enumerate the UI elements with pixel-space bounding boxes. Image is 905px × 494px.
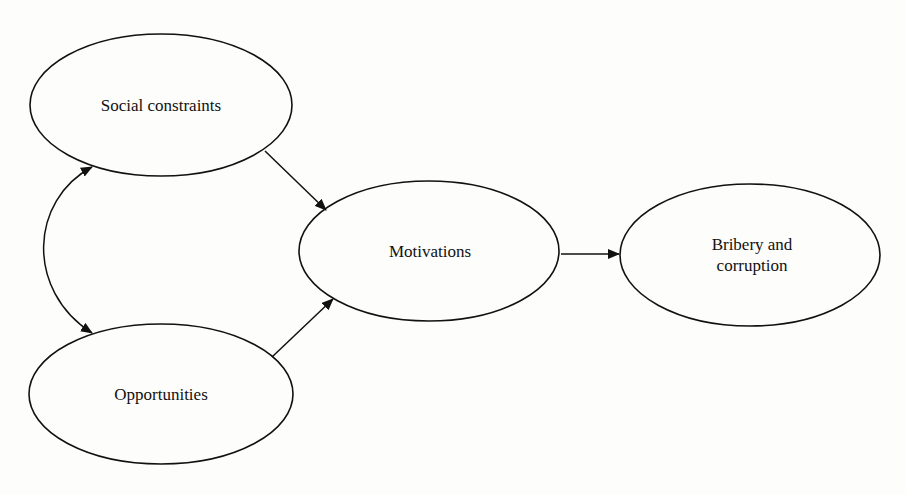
label-motivations: Motivations: [389, 241, 471, 262]
label-opportunities: Opportunities: [114, 384, 208, 405]
edge-opportunities-to-motivations: [272, 299, 333, 357]
label-social-constraints: Social constraints: [101, 95, 221, 116]
label-bribery-and-corruption: Bribery and corruption: [712, 234, 793, 276]
edge-social-opportunities-correlation: [44, 167, 92, 333]
edge-social-to-motivations: [265, 151, 326, 210]
